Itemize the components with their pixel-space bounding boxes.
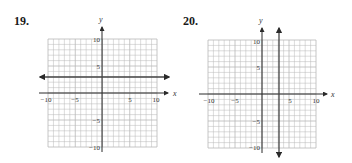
tick-x-neg10-20: −10 — [204, 97, 215, 105]
tick-x-5-19: 5 — [128, 96, 132, 104]
tick-y-5-20: 5 — [257, 64, 261, 72]
y-axis-label-19: y — [98, 15, 103, 24]
x-axis-label-19: x — [172, 89, 177, 98]
tick-y-neg5-20: −5 — [253, 118, 261, 126]
x-axis-label-20: x — [330, 90, 335, 99]
tick-x-neg5-20: −5 — [231, 97, 239, 105]
tick-x-10-19: 10 — [153, 96, 161, 104]
tick-y-neg10-19: −10 — [89, 144, 100, 152]
tick-y-neg5-19: −5 — [93, 117, 101, 125]
tick-x-5-20: 5 — [288, 97, 292, 105]
graph-20: x y −10 −5 5 10 10 5 −5 −10 — [199, 16, 335, 157]
tick-y-neg10-20: −10 — [249, 144, 260, 152]
tick-x-neg10-19: −10 — [41, 96, 52, 104]
tick-y-5-19: 5 — [97, 63, 101, 71]
tick-x-10-20: 10 — [313, 97, 321, 105]
graph-19: x y −10 −5 5 10 10 5 −5 −10 — [39, 15, 177, 152]
tick-y-10-19: 10 — [93, 36, 101, 44]
tick-y-10-20: 10 — [253, 38, 261, 46]
tick-x-neg5-19: −5 — [71, 96, 79, 104]
y-axis-label-20: y — [258, 16, 263, 25]
graphs-canvas: x y −10 −5 5 10 10 5 −5 −10 x y −10 −5 5… — [0, 0, 352, 163]
